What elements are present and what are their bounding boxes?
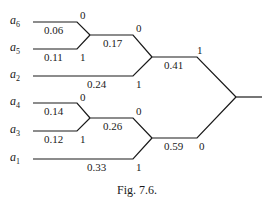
- bit-a1: 1: [136, 162, 142, 173]
- edge-n431: [152, 97, 236, 138]
- leaf-a3: a3: [10, 124, 20, 139]
- bit-n43: 0: [136, 106, 142, 117]
- bit-a6: 0: [80, 10, 86, 21]
- bit-a5: 1: [80, 52, 86, 63]
- bit-a3: 1: [80, 134, 86, 145]
- edge-a3: [33, 118, 90, 131]
- prob-a1: 0.33: [87, 162, 106, 173]
- figure-caption: Fig. 7.6.: [0, 183, 274, 198]
- prob-a4: 0.14: [44, 106, 63, 117]
- prob-a3: 0.12: [44, 134, 63, 145]
- leaf-a5: a5: [10, 42, 20, 57]
- bit-n652: 1: [197, 45, 203, 56]
- prob-a6: 0.06: [44, 25, 63, 36]
- prob-n652: 0.41: [164, 60, 183, 71]
- leaf-a6: a6: [10, 15, 20, 30]
- prob-a5: 0.11: [44, 52, 63, 63]
- leaf-a1: a1: [10, 152, 20, 167]
- leaf-a2: a2: [10, 69, 20, 84]
- edge-a5: [33, 35, 90, 49]
- prob-n431: 0.59: [164, 141, 183, 152]
- prob-n43: 0.26: [103, 121, 122, 132]
- bit-n431: 0: [199, 141, 205, 152]
- bit-a2: 1: [136, 79, 142, 90]
- prob-a2: 0.24: [87, 79, 106, 90]
- bit-n65: 0: [136, 23, 142, 34]
- bit-a4: 0: [80, 92, 86, 103]
- prob-n65: 0.17: [103, 38, 122, 49]
- leaf-a4: a4: [10, 96, 20, 111]
